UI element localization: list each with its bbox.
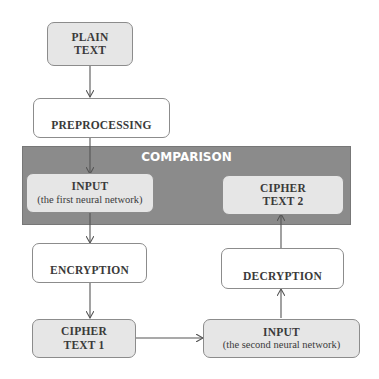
cipher-text-2-node: CIPHER TEXT 2 bbox=[222, 175, 344, 215]
cipher-text-1-line1: CIPHER bbox=[61, 325, 107, 338]
cipher-text-1-line2: TEXT 1 bbox=[64, 339, 105, 352]
preprocessing-label: PREPROCESSING bbox=[51, 119, 151, 132]
decryption-node: DECRYPTION bbox=[221, 248, 344, 289]
cipher-text-2-line1: CIPHER bbox=[260, 182, 306, 195]
input1-subtitle: (the first neural network) bbox=[37, 194, 142, 206]
plain-text-line1: PLAIN bbox=[72, 31, 109, 44]
input2-title: INPUT bbox=[263, 326, 300, 339]
input-second-network-node: INPUT (the second neural network) bbox=[203, 319, 360, 358]
cipher-text-2-line2: TEXT 2 bbox=[263, 195, 304, 208]
preprocessing-node: PREPROCESSING bbox=[33, 98, 170, 138]
plain-text-line2: TEXT bbox=[74, 44, 106, 57]
cipher-text-1-node: CIPHER TEXT 1 bbox=[32, 319, 136, 358]
encryption-label: ENCRYPTION bbox=[50, 264, 129, 277]
input1-title: INPUT bbox=[72, 180, 109, 193]
input-first-network-node: INPUT (the first neural network) bbox=[26, 173, 154, 213]
plain-text-node: PLAIN TEXT bbox=[47, 22, 133, 66]
decryption-label: DECRYPTION bbox=[243, 270, 322, 283]
encryption-node: ENCRYPTION bbox=[32, 243, 147, 283]
input2-subtitle: (the second neural network) bbox=[223, 339, 341, 351]
